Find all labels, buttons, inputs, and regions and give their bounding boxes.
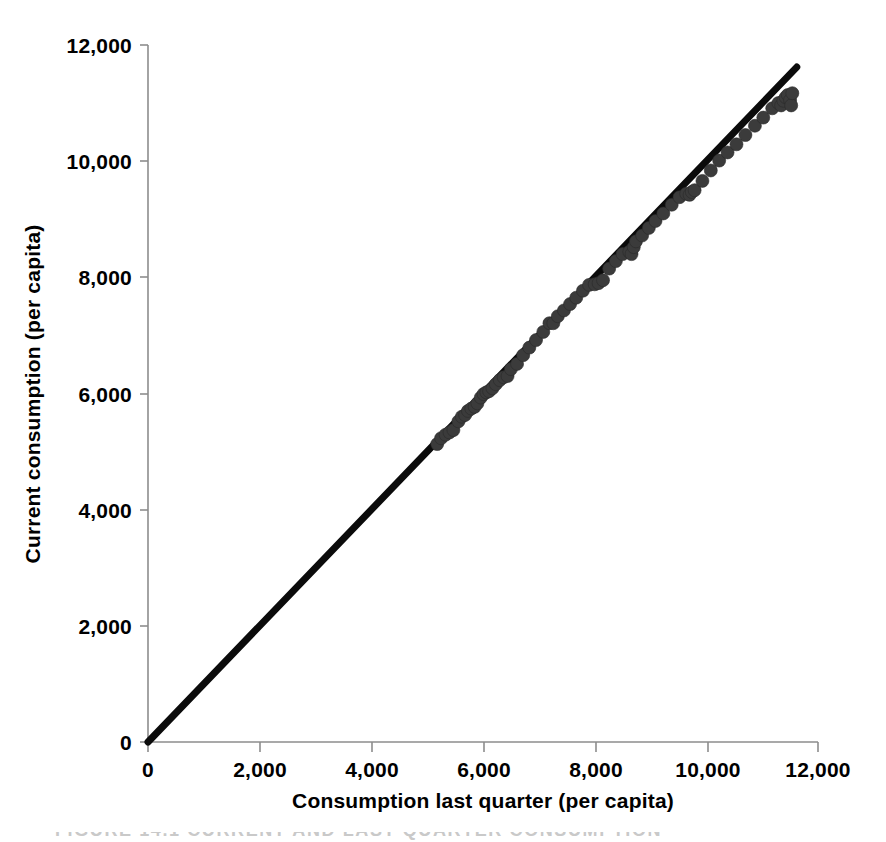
scatter-plot: 12,000 10,000 8,000 6,000 4,000 2,000 0 … bbox=[0, 0, 886, 842]
x-tick-label-2000: 2,000 bbox=[233, 758, 287, 781]
x-tick-label-0: 0 bbox=[142, 758, 154, 781]
x-axis-tick-labels: 0 2,000 4,000 6,000 8,000 10,000 12,000 bbox=[142, 758, 851, 781]
y-tick-label-8000: 8,000 bbox=[78, 266, 132, 289]
figure-caption: FIGURE 14.1 CURRENT AND LAST QUARTER CON… bbox=[55, 832, 662, 841]
x-tick-label-10000: 10,000 bbox=[675, 758, 740, 781]
x-tick-label-12000: 12,000 bbox=[785, 758, 850, 781]
y-tick-label-4000: 4,000 bbox=[78, 499, 132, 522]
y-tick-label-12000: 12,000 bbox=[67, 34, 132, 57]
x-tick-label-8000: 8,000 bbox=[569, 758, 623, 781]
y-axis-title: Current consumption (per capita) bbox=[21, 225, 44, 564]
y-tick-label-0: 0 bbox=[120, 731, 132, 754]
scatter-point bbox=[785, 99, 798, 112]
x-axis-ticks bbox=[148, 742, 818, 752]
y-tick-label-6000: 6,000 bbox=[78, 383, 132, 406]
scatter-point bbox=[597, 274, 610, 287]
x-tick-label-4000: 4,000 bbox=[345, 758, 399, 781]
scatter-point bbox=[696, 174, 709, 187]
y-tick-label-10000: 10,000 bbox=[67, 150, 132, 173]
figure-caption-strip: FIGURE 14.1 CURRENT AND LAST QUARTER CON… bbox=[0, 832, 886, 842]
scatter-point bbox=[786, 87, 799, 100]
scatter-points-layer bbox=[431, 87, 799, 451]
x-axis-title: Consumption last quarter (per capita) bbox=[292, 789, 674, 812]
y-axis-ticks bbox=[140, 45, 148, 742]
y-tick-label-2000: 2,000 bbox=[78, 615, 132, 638]
scatter-point bbox=[739, 129, 752, 142]
y-axis-tick-labels: 12,000 10,000 8,000 6,000 4,000 2,000 0 bbox=[67, 34, 132, 754]
x-tick-label-6000: 6,000 bbox=[457, 758, 511, 781]
chart-figure: 12,000 10,000 8,000 6,000 4,000 2,000 0 … bbox=[0, 0, 886, 842]
